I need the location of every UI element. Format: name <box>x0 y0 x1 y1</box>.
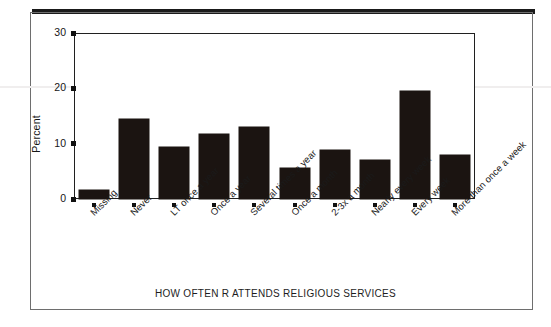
bar <box>159 147 189 199</box>
y-axis-tick-label: 20 <box>36 82 66 93</box>
y-axis-tick-label: 0 <box>36 193 66 204</box>
bar <box>119 119 149 199</box>
y-axis-tick <box>71 197 76 202</box>
y-axis-title: Percent <box>30 94 42 174</box>
y-axis-tick <box>71 141 76 146</box>
y-axis-tick-label: 30 <box>36 27 66 38</box>
y-axis-tick <box>71 31 76 36</box>
y-axis-tick <box>71 86 76 91</box>
bar-chart-figure: 0102030 Percent MissingNeverLT once a ye… <box>0 0 551 327</box>
x-axis-title: HOW OFTEN R ATTENDS RELIGIOUS SERVICES <box>0 288 551 299</box>
